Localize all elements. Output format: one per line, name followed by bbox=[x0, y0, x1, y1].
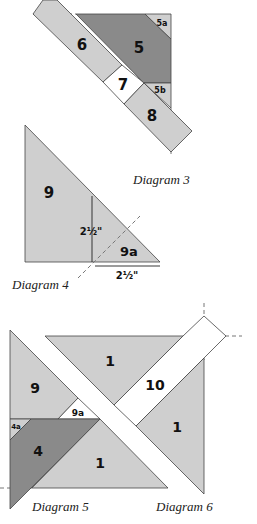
quilt-diagrams: 6 5 5a 5b 7 8 Diagram 3 9 9a 2½" 2½" Dia… bbox=[0, 0, 257, 524]
label-1-bottom: 1 bbox=[95, 455, 105, 471]
label-9: 9 bbox=[44, 184, 54, 202]
label-5b: 5b bbox=[154, 86, 166, 95]
label-9: 9 bbox=[30, 380, 40, 396]
caption-diagram-3: Diagram 3 bbox=[132, 172, 190, 187]
dimension-horizontal-label: 2½" bbox=[116, 270, 139, 281]
label-5: 5 bbox=[134, 39, 144, 57]
label-4a: 4a bbox=[11, 423, 21, 431]
diagram-5-6: 9 9a 4a 4 1 1 10 1 Diagram 5 Diagram 6 bbox=[0, 303, 242, 514]
label-4: 4 bbox=[33, 443, 43, 459]
label-1-top: 1 bbox=[105, 353, 115, 369]
label-5a: 5a bbox=[157, 19, 168, 28]
label-7: 7 bbox=[118, 76, 128, 94]
label-10: 10 bbox=[145, 377, 165, 393]
label-1-right: 1 bbox=[172, 419, 182, 435]
dimension-vertical-label: 2½" bbox=[80, 226, 103, 237]
label-8: 8 bbox=[147, 107, 157, 125]
caption-diagram-5: Diagram 5 bbox=[31, 499, 89, 514]
label-9a: 9a bbox=[120, 244, 138, 259]
diagram-4: 9 9a 2½" 2½" Diagram 4 bbox=[11, 125, 160, 292]
caption-diagram-4: Diagram 4 bbox=[11, 277, 69, 292]
caption-diagram-6: Diagram 6 bbox=[155, 499, 213, 514]
label-6: 6 bbox=[77, 36, 87, 54]
label-9a: 9a bbox=[72, 408, 84, 418]
